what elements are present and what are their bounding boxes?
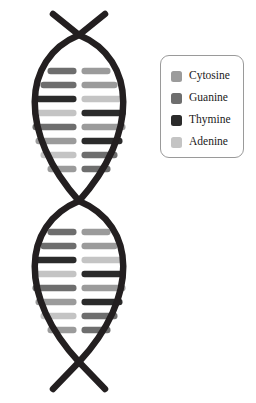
lower-rung-2-left-base-thymine bbox=[36, 257, 77, 264]
lower-rung-2-right-base-adenine bbox=[82, 257, 123, 264]
legend-item-cytosine[interactable]: Cytosine bbox=[171, 65, 243, 87]
lower-rung-1-right-base-cytosine bbox=[82, 243, 118, 250]
lower-rung-0-right-base-cytosine bbox=[82, 229, 111, 236]
legend-list: Cytosine Guanine Thymine Adenine bbox=[161, 56, 243, 157]
legend-swatch-guanine bbox=[171, 93, 182, 104]
legend-swatch-adenine bbox=[171, 137, 182, 148]
upper-rung-0-left-base-guanine bbox=[48, 68, 77, 75]
legend-label-adenine: Adenine bbox=[189, 136, 228, 148]
legend-swatch-cytosine bbox=[171, 71, 182, 82]
upper-rung-3-right-base-thymine bbox=[82, 110, 126, 117]
legend-label-cytosine: Cytosine bbox=[189, 70, 230, 82]
upper-rung-2-left-base-thymine bbox=[36, 96, 77, 103]
legend-box: Cytosine Guanine Thymine Adenine bbox=[160, 55, 244, 158]
upper-rung-1-left-base-guanine bbox=[41, 82, 77, 89]
legend-label-thymine: Thymine bbox=[189, 114, 231, 126]
upper-rung-2-right-base-adenine bbox=[82, 96, 123, 103]
legend-swatch-thymine bbox=[171, 115, 182, 126]
upper-rung-1-right-base-cytosine bbox=[82, 82, 118, 89]
legend-item-guanine[interactable]: Guanine bbox=[171, 87, 243, 109]
upper-rung-0-right-base-cytosine bbox=[82, 68, 111, 75]
lower-rung-3-right-base-thymine bbox=[82, 271, 126, 278]
lower-rung-0-left-base-guanine bbox=[48, 229, 77, 236]
legend-label-guanine: Guanine bbox=[189, 92, 228, 104]
legend-item-thymine[interactable]: Thymine bbox=[171, 109, 243, 131]
legend-item-adenine[interactable]: Adenine bbox=[171, 131, 243, 153]
upper-rung-3-left-base-adenine bbox=[33, 110, 77, 117]
lower-rung-3-left-base-adenine bbox=[33, 271, 77, 278]
lower-rung-1-left-base-guanine bbox=[41, 243, 77, 250]
